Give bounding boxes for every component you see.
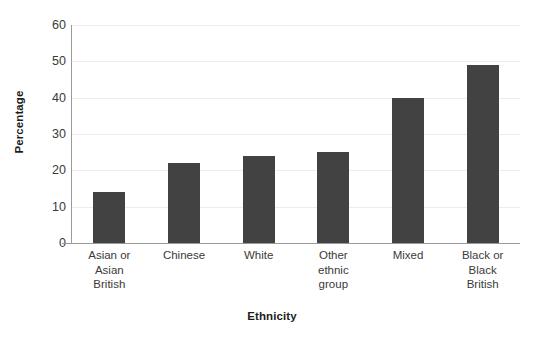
y-axis-tick-label: 40 bbox=[6, 91, 66, 105]
x-axis-tick-label-line: group bbox=[295, 277, 371, 292]
x-axis-line bbox=[62, 243, 520, 244]
bar-slot bbox=[445, 25, 520, 243]
x-axis-tick-label: Otherethnicgroup bbox=[295, 248, 371, 292]
x-axis-tick-label: Asian orAsianBritish bbox=[71, 248, 147, 292]
x-axis-tick-labels: Asian orAsianBritishChineseWhiteOthereth… bbox=[72, 248, 520, 308]
y-axis-tick-label: 20 bbox=[6, 163, 66, 177]
bar[interactable] bbox=[317, 152, 349, 243]
bar-slot bbox=[147, 25, 222, 243]
bar[interactable] bbox=[243, 156, 275, 243]
bar-chart: Percentage 0102030405060 Asian orAsianBr… bbox=[0, 0, 536, 338]
bar-series bbox=[72, 25, 520, 243]
y-axis-tick-label: 60 bbox=[6, 18, 66, 32]
y-axis-tick-labels: 0102030405060 bbox=[0, 25, 66, 243]
x-axis-tick-label-line: Asian bbox=[71, 263, 147, 278]
y-axis-tick-label: 30 bbox=[6, 127, 66, 141]
bar-slot bbox=[221, 25, 296, 243]
bar[interactable] bbox=[93, 192, 125, 243]
x-axis-tick-label-line: Asian or bbox=[71, 248, 147, 263]
bar[interactable] bbox=[168, 163, 200, 243]
x-axis-tick-label-line: Chinese bbox=[146, 248, 222, 263]
x-axis-tick-label-line: Black or bbox=[445, 248, 521, 263]
x-axis-tick-label-line: Mixed bbox=[370, 248, 446, 263]
y-axis-tick-label: 50 bbox=[6, 54, 66, 68]
x-axis-tick-label-line: White bbox=[221, 248, 297, 263]
y-axis-tick-label: 10 bbox=[6, 200, 66, 214]
bar[interactable] bbox=[392, 98, 424, 243]
x-axis-tick-label: White bbox=[221, 248, 297, 263]
x-axis-tick-label-line: British bbox=[445, 277, 521, 292]
x-axis-tick-label: Chinese bbox=[146, 248, 222, 263]
x-axis-tick-label-line: Black bbox=[445, 263, 521, 278]
x-axis-tick-label-line: British bbox=[71, 277, 147, 292]
x-axis-tick-label: Black orBlackBritish bbox=[445, 248, 521, 292]
bar-slot bbox=[296, 25, 371, 243]
x-axis-tick-label: Mixed bbox=[370, 248, 446, 263]
y-axis-tick-label: 0 bbox=[6, 236, 66, 250]
bar-slot bbox=[72, 25, 147, 243]
x-axis-tick-label-line: ethnic bbox=[295, 263, 371, 278]
bar-slot bbox=[371, 25, 446, 243]
bar[interactable] bbox=[467, 65, 499, 243]
x-axis-title: Ethnicity bbox=[72, 310, 472, 322]
x-axis-tick-label-line: Other bbox=[295, 248, 371, 263]
